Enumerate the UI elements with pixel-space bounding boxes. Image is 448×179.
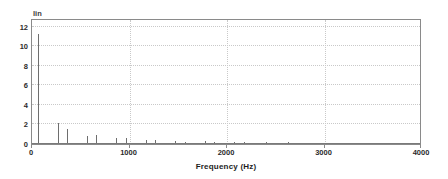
spectrum-line: [38, 34, 39, 144]
spectrum-line: [67, 129, 68, 144]
x-tick-label-2000: 2000: [218, 148, 235, 157]
y-tick-label-12: 12: [4, 24, 28, 32]
y-tick-label-2: 2: [4, 121, 28, 129]
gridline-y-8: [32, 65, 420, 66]
gridline-y-2: [32, 123, 420, 124]
gridline-x-2000: [227, 20, 228, 144]
y-tick-label-4: 4: [4, 102, 28, 110]
gridline-y-10: [32, 45, 420, 46]
gridline-y-12: [32, 26, 420, 27]
spectrum-figure: lin 024681012 01000200030004000 Frequenc…: [0, 0, 448, 179]
gridline-y-6: [32, 84, 420, 85]
scale-type-label: lin: [33, 9, 42, 18]
y-tick-label-0: 0: [4, 141, 28, 149]
gridline-y-4: [32, 104, 420, 105]
spectrum-line: [58, 123, 59, 144]
baseline: [32, 143, 420, 144]
y-axis: 024681012: [0, 19, 28, 145]
y-tick-label-8: 8: [4, 63, 28, 71]
plot-area: [31, 19, 421, 145]
x-tick-label-1000: 1000: [120, 148, 137, 157]
gridline-x-1000: [130, 20, 131, 144]
x-tick-label-4000: 4000: [413, 148, 430, 157]
x-axis: 01000200030004000: [31, 148, 421, 160]
gridline-x-3000: [325, 20, 326, 144]
x-axis-label: Frequency (Hz): [31, 162, 421, 171]
x-tick-label-3000: 3000: [315, 148, 332, 157]
y-tick-label-10: 10: [4, 43, 28, 51]
x-tick-label-0: 0: [29, 148, 33, 157]
y-tick-label-6: 6: [4, 82, 28, 90]
